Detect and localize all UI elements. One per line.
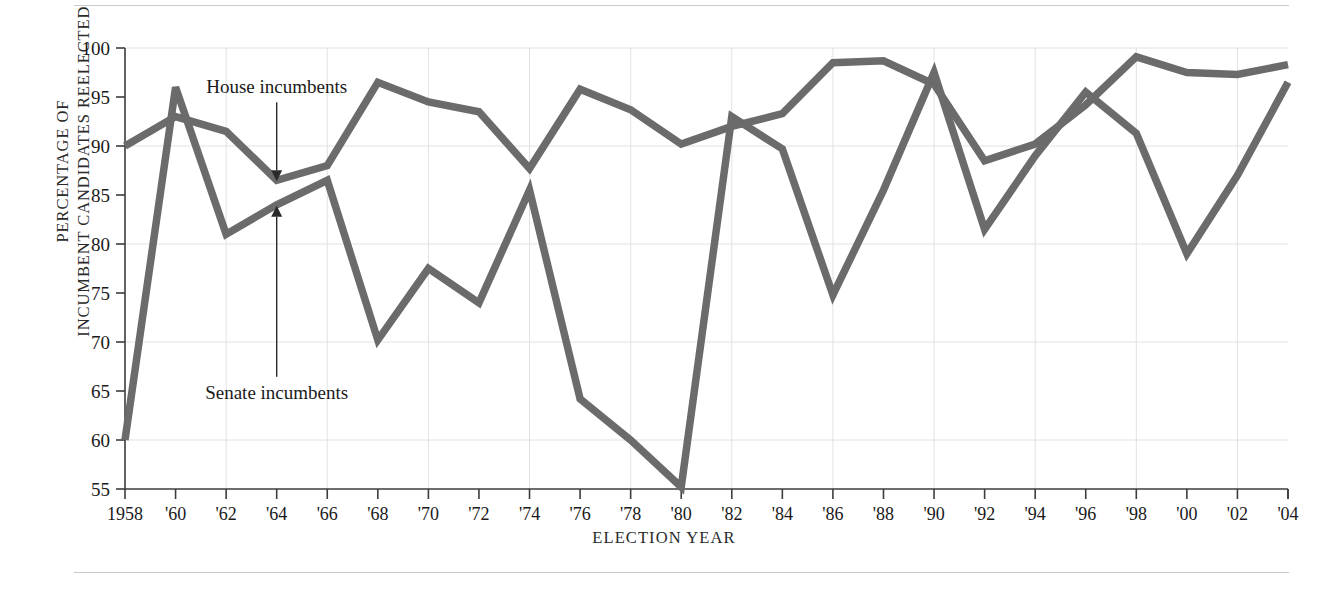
y-axis-tick-label: 95: [91, 87, 110, 108]
x-axis-tick-label: '66: [317, 504, 338, 524]
y-axis-tick-label: 75: [91, 283, 110, 304]
y-axis-tick-label: 65: [91, 381, 110, 402]
figure-container: PERCENTAGE OFINCUMBENT CANDIDATES REELEC…: [0, 0, 1328, 592]
x-axis-tick-label: '88: [873, 504, 894, 524]
y-axis-tick-label: 70: [91, 332, 110, 353]
x-axis-tick-label: '62: [216, 504, 237, 524]
x-axis-tick-label: 1958: [107, 504, 143, 524]
x-axis-tick-label: '86: [822, 504, 843, 524]
x-axis-tick-label: '76: [569, 504, 590, 524]
x-axis-tick-label: '70: [418, 504, 439, 524]
y-axis-tick-label: 55: [91, 479, 110, 500]
tick-label-layer: 5560657075808590951001958'60'62'64'66'68…: [82, 38, 1299, 525]
x-axis-tick-label: '90: [923, 504, 944, 524]
x-axis-tick-label: '94: [1025, 504, 1046, 524]
x-axis-tick-label: '84: [772, 504, 793, 524]
y-axis-tick-label: 60: [91, 430, 110, 451]
x-axis-tick-label: '72: [468, 504, 489, 524]
x-axis-tick-label: '96: [1075, 504, 1096, 524]
x-axis-tick-label: '68: [367, 504, 388, 524]
house-incumbents-annotation-label: House incumbents: [206, 76, 347, 97]
x-axis-tick-label: '64: [266, 504, 287, 524]
x-axis-tick-label: '60: [165, 504, 186, 524]
y-axis-tick-label: 100: [82, 38, 111, 59]
x-axis-tick-label: '04: [1277, 504, 1298, 524]
series-layer: [125, 57, 1288, 487]
x-axis-tick-label: '92: [974, 504, 995, 524]
x-axis-tick-label: '00: [1176, 504, 1197, 524]
x-axis-tick-label: '82: [721, 504, 742, 524]
senate-incumbents-annotation-label: Senate incumbents: [205, 382, 348, 403]
x-axis-tick-label: '80: [671, 504, 692, 524]
x-axis-tick-label: '02: [1227, 504, 1248, 524]
annotation-layer: House incumbentsSenate incumbents: [205, 76, 348, 403]
line-chart-plot: House incumbentsSenate incumbents 556065…: [0, 0, 1328, 592]
x-axis-tick-label: '78: [620, 504, 641, 524]
y-axis-tick-label: 90: [91, 136, 110, 157]
y-axis-tick-label: 80: [91, 234, 110, 255]
x-axis-tick-label: '74: [519, 504, 540, 524]
y-axis-tick-label: 85: [91, 185, 110, 206]
x-axis-tick-label: '98: [1126, 504, 1147, 524]
